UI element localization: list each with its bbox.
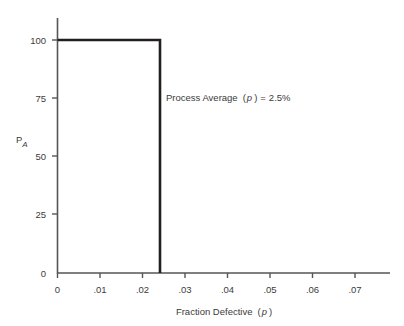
y-tick-label-50: 50 bbox=[35, 151, 46, 162]
annotation-equals: = bbox=[260, 92, 266, 103]
annotation-prefix: Process Average bbox=[166, 92, 238, 103]
x-tick-label-05: .05 bbox=[263, 284, 276, 295]
x-axis-title-paren-close: ) bbox=[269, 306, 272, 317]
y-axis-title-subscript: A bbox=[21, 140, 27, 149]
y-tick-label-25: 25 bbox=[35, 209, 46, 220]
y-tick-label-100: 100 bbox=[30, 35, 46, 46]
process-average-annotation: Process Average(p)=2.5% bbox=[166, 92, 291, 103]
x-tick-label-01: .01 bbox=[93, 284, 106, 295]
annotation-var: p bbox=[246, 92, 252, 103]
annotation-paren-close: ) bbox=[254, 92, 257, 103]
oc-curve-chart: 100 75 50 25 0 0 .01 .02 .03 .04 .05 .06… bbox=[0, 0, 404, 326]
x-tick-label-02: .02 bbox=[136, 284, 149, 295]
chart-background bbox=[0, 0, 404, 326]
x-axis-title: Fraction Defective(p) bbox=[176, 306, 272, 317]
x-tick-label-06: .06 bbox=[306, 284, 319, 295]
x-axis-title-var: p bbox=[261, 306, 267, 317]
x-tick-label-0: 0 bbox=[55, 284, 60, 295]
x-tick-label-07: .07 bbox=[348, 284, 361, 295]
y-tick-label-75: 75 bbox=[35, 93, 46, 104]
y-tick-label-0: 0 bbox=[41, 268, 46, 279]
chart-svg: 100 75 50 25 0 0 .01 .02 .03 .04 .05 .06… bbox=[0, 0, 404, 326]
x-tick-label-04: .04 bbox=[221, 284, 234, 295]
annotation-value: 2.5% bbox=[269, 92, 291, 103]
x-tick-label-03: .03 bbox=[178, 284, 191, 295]
x-axis-title-main: Fraction Defective bbox=[176, 306, 253, 317]
